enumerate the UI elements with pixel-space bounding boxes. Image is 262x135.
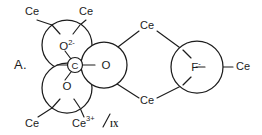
- panel-label: A.: [14, 57, 27, 72]
- atom-label-oxygen-right: O: [102, 59, 111, 71]
- ligand-label-ce-middle-upper: Ce: [140, 19, 154, 31]
- bond-o-right-to-ce-mid-lower: [114, 82, 139, 98]
- atom-label-carbon-center: C: [72, 60, 79, 71]
- atom-label-oxide-element: O: [59, 40, 68, 52]
- ligand-label-ce-top-right: Ce: [79, 5, 93, 17]
- ligand-denominator-ce-bottom-center: IX: [110, 120, 119, 129]
- ligand-label-ce-bottom-center: Ce3+: [72, 114, 95, 129]
- atom-label-oxygen-right-element: O: [102, 59, 111, 71]
- atom-label-fluoride-element: F: [191, 61, 198, 73]
- ligand-label-ce-middle-lower: Ce: [140, 94, 154, 106]
- ligand-text-ce-top-right: Ce: [79, 5, 93, 17]
- fraction-slash: [103, 114, 110, 127]
- bond-oxide-to-ce-top-left: [37, 20, 52, 25]
- atom-label-carbon-element: C: [72, 60, 79, 71]
- ligand-text-ce-middle-lower: Ce: [140, 94, 154, 106]
- ligand-text-ce-bottom-center: Ce: [72, 117, 86, 129]
- ligand-superscript-ce-bottom-center: 3+: [86, 114, 95, 123]
- bond-ce-mid-lower-to-f: [157, 85, 183, 98]
- ligand-text-ce-middle-upper: Ce: [140, 19, 154, 31]
- atom-label-oxygen-bottom-left: O: [63, 80, 72, 92]
- ligand-denominator-text: IX: [110, 120, 119, 129]
- ligand-label-ce-top-left: Ce: [25, 5, 39, 17]
- chemical-structure-figure: O2- O O C F- Ce Ce Ce: [0, 0, 262, 135]
- atom-label-oxygen-bl-element: O: [63, 80, 72, 92]
- ligand-text-ce-top-left: Ce: [25, 5, 39, 17]
- bond-o-bl-to-ce-bottom-left: [38, 108, 52, 117]
- ligand-text-ce-bottom-left: Ce: [25, 117, 39, 129]
- structure-diagram-canvas: O2- O O C F- Ce Ce Ce: [0, 0, 262, 135]
- atom-label-oxide-charge: 2-: [68, 38, 75, 47]
- ligand-text-ce-far-right: Ce: [236, 60, 250, 72]
- ligand-label-ce-bottom-left: Ce: [25, 117, 39, 129]
- ligand-label-ce-far-right: Ce: [236, 60, 250, 72]
- panel-label-text: A.: [14, 57, 27, 72]
- bond-ce-mid-upper-to-f: [157, 31, 183, 50]
